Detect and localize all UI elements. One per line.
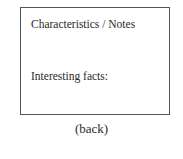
card-caption: (back) bbox=[0, 121, 183, 137]
note-card: Characteristics / Notes Interesting fact… bbox=[20, 7, 170, 115]
card-heading: Characteristics / Notes bbox=[31, 18, 135, 30]
facts-label: Interesting facts: bbox=[31, 70, 108, 82]
